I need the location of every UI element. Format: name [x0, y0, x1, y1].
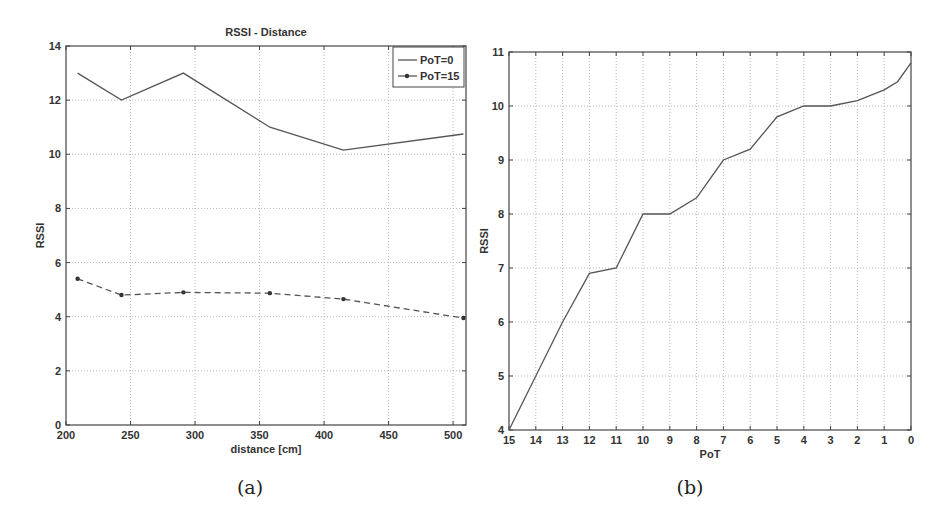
chart-rssi-distance: 20025030035040045050002468101214distance… — [34, 26, 466, 455]
y-tick-label: 7 — [498, 262, 504, 274]
series-line-pot-15 — [78, 279, 464, 318]
x-tick-label: 14 — [530, 434, 543, 446]
legend-label: PoT=0 — [420, 54, 453, 66]
data-point — [181, 290, 185, 294]
x-tick-label: 12 — [583, 434, 595, 446]
y-tick-label: 6 — [498, 316, 504, 328]
x-tick-label: 5 — [774, 434, 780, 446]
x-tick-label: 10 — [637, 434, 649, 446]
y-tick-label: 10 — [492, 100, 504, 112]
y-axis-label: RSSI — [478, 228, 490, 254]
x-tick-label: 400 — [315, 429, 333, 441]
x-tick-label: 8 — [694, 434, 700, 446]
x-tick-label: 250 — [121, 429, 139, 441]
x-tick-label: 450 — [379, 429, 397, 441]
x-tick-label: 7 — [720, 434, 726, 446]
y-tick-label: 2 — [55, 365, 61, 377]
y-tick-label: 12 — [49, 94, 61, 106]
x-tick-label: 3 — [828, 434, 834, 446]
y-tick-label: 10 — [49, 148, 61, 160]
x-axis-label: distance [cm] — [231, 443, 302, 455]
y-tick-label: 0 — [55, 419, 61, 431]
x-tick-label: 6 — [747, 434, 753, 446]
y-tick-label: 8 — [55, 202, 61, 214]
x-axis-label: PoT — [700, 448, 721, 460]
series-line-rssi — [509, 63, 911, 430]
data-point — [461, 316, 465, 320]
x-tick-label: 13 — [556, 434, 568, 446]
y-tick-label: 5 — [498, 370, 504, 382]
figure: 20025030035040045050002468101214distance… — [0, 0, 943, 524]
legend-label: PoT=15 — [420, 70, 459, 82]
y-tick-label: 4 — [55, 311, 62, 323]
x-tick-label: 11 — [610, 434, 622, 446]
x-tick-label: 0 — [908, 434, 914, 446]
plot-frame — [66, 46, 466, 425]
y-tick-label: 4 — [498, 424, 505, 436]
y-axis-label: RSSI — [34, 223, 46, 249]
plot-frame — [509, 52, 911, 430]
y-tick-label: 11 — [492, 46, 504, 58]
x-tick-label: 1 — [881, 434, 887, 446]
data-point — [268, 291, 272, 295]
caption-a: (a) — [237, 476, 263, 498]
chart-title: RSSI - Distance — [225, 26, 306, 38]
data-point — [75, 277, 79, 281]
y-tick-label: 14 — [49, 40, 62, 52]
x-tick-label: 9 — [667, 434, 673, 446]
caption-b: (b) — [677, 476, 704, 498]
data-point — [341, 297, 345, 301]
data-point — [119, 293, 123, 297]
y-tick-label: 6 — [55, 257, 61, 269]
y-tick-label: 9 — [498, 154, 504, 166]
y-tick-label: 8 — [498, 208, 504, 220]
x-tick-label: 4 — [801, 434, 808, 446]
legend: PoT=0PoT=15 — [393, 47, 464, 87]
chart-rssi-pot: 15141312111098765432104567891011PoTRSSI — [478, 46, 914, 460]
x-tick-label: 500 — [444, 429, 462, 441]
x-tick-label: 2 — [854, 434, 860, 446]
x-tick-label: 300 — [186, 429, 204, 441]
x-tick-label: 15 — [503, 434, 515, 446]
x-tick-label: 350 — [250, 429, 268, 441]
